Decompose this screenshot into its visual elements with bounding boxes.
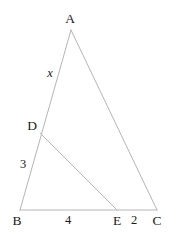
vertex-label-B: B	[12, 214, 21, 228]
vertex-label-E: E	[113, 214, 121, 228]
vertex-label-C: C	[152, 214, 161, 228]
geometry-figure: A B C D E x 3 4 2	[0, 0, 177, 234]
length-label-AD: x	[47, 67, 53, 80]
side-AC-line	[71, 30, 157, 210]
segment-DE-line	[40, 133, 117, 210]
vertex-label-A: A	[65, 12, 75, 26]
vertex-label-D: D	[27, 119, 37, 133]
triangle-diagram-svg	[0, 0, 177, 234]
length-label-EC: 2	[131, 214, 137, 227]
length-label-DB: 3	[20, 158, 26, 171]
length-label-BE: 4	[65, 214, 71, 227]
